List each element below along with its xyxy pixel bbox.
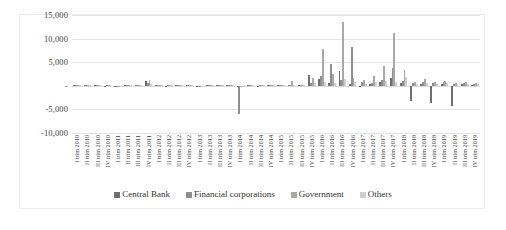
- bar-group: [388, 15, 398, 133]
- bar: [293, 85, 295, 86]
- x-axis-tick: III trim 2019: [460, 134, 470, 192]
- legend-item[interactable]: Others: [360, 190, 392, 199]
- bar-group: [347, 15, 357, 133]
- bar-slot: [467, 15, 469, 133]
- bar-group: [235, 15, 245, 133]
- x-axis-tick: I trim 2012: [154, 134, 164, 192]
- legend-label: Others: [368, 190, 392, 199]
- legend-item[interactable]: Financial corporations: [186, 190, 275, 199]
- bar-group: [276, 15, 286, 133]
- x-axis-tick-label: IV trim 2013: [227, 135, 233, 167]
- bar-group: [245, 15, 255, 133]
- bar-group: [419, 15, 429, 133]
- bar-group: [286, 15, 296, 133]
- x-axis-tick-label: III trim 2019: [462, 135, 468, 167]
- chart-legend: Central BankFinancial corporationsGovern…: [20, 190, 486, 199]
- bar-group: [92, 15, 102, 133]
- x-axis-tick: IV trim 2019: [470, 134, 480, 192]
- bar-slot: [375, 15, 377, 133]
- legend-swatch-financial-corporations: [186, 192, 192, 198]
- bar-group: [174, 15, 184, 133]
- bar: [263, 85, 265, 86]
- x-axis-tick-label: I trim 2018: [400, 135, 406, 163]
- y-axis-tick-label: -10,000: [20, 129, 68, 138]
- bar-slot: [273, 15, 275, 133]
- x-axis-tick: I trim 2015: [276, 134, 286, 192]
- bar-group: [184, 15, 194, 133]
- bar-group: [450, 15, 460, 133]
- x-axis-tick-label: II trim 2015: [288, 135, 294, 165]
- legend-item[interactable]: Central Bank: [114, 190, 170, 199]
- bar-group: [123, 15, 133, 133]
- bar-slot: [457, 15, 459, 133]
- x-axis-tick-label: I trim 2015: [278, 135, 284, 163]
- x-axis-tick-label: IV trim 2017: [390, 135, 396, 167]
- bar-group: [113, 15, 123, 133]
- x-axis-tick-label: I trim 2011: [115, 135, 121, 163]
- bar-group: [164, 15, 174, 133]
- x-axis-tick: II trim 2010: [82, 134, 92, 192]
- bar-slot: [416, 15, 418, 133]
- x-axis-tick: IV trim 2014: [266, 134, 276, 192]
- y-axis: 15,00010,0005,000--5,000-10,000: [20, 15, 72, 133]
- bar-group: [409, 15, 419, 133]
- bar-group: [296, 15, 306, 133]
- bar-group: [337, 15, 347, 133]
- bar-group: [154, 15, 164, 133]
- bar: [140, 85, 142, 86]
- x-axis-tick: IV trim 2016: [347, 134, 357, 192]
- x-axis-tick-label: II trim 2012: [166, 135, 172, 165]
- legend-swatch-government: [291, 192, 297, 198]
- x-axis-tick: II trim 2016: [327, 134, 337, 192]
- x-axis-tick-label: II trim 2011: [125, 135, 131, 165]
- bar: [89, 85, 91, 86]
- bar-group: [133, 15, 143, 133]
- legend-swatch-others: [360, 192, 366, 198]
- bar: [283, 85, 285, 86]
- x-axis-tick-label: I trim 2010: [74, 135, 80, 163]
- x-axis-tick-label: II trim 2014: [247, 135, 253, 165]
- y-axis-tick-label: 10,000: [20, 35, 68, 44]
- x-axis-tick: I trim 2018: [399, 134, 409, 192]
- x-axis-tick-label: IV trim 2016: [349, 135, 355, 167]
- bar: [150, 84, 152, 86]
- chart-container: 15,00010,0005,000--5,000-10,000 I trim 2…: [19, 14, 485, 209]
- x-axis-tick-label: I trim 2019: [441, 135, 447, 163]
- bar-group: [266, 15, 276, 133]
- bar-slot: [242, 15, 244, 133]
- bar: [120, 86, 122, 87]
- x-axis-tick: IV trim 2010: [103, 134, 113, 192]
- x-axis-tick-label: III trim 2016: [339, 135, 345, 167]
- x-axis-tick: III trim 2015: [296, 134, 306, 192]
- bar-slot: [150, 15, 152, 133]
- bar-slot: [303, 15, 305, 133]
- bar-slot: [314, 15, 316, 133]
- x-axis-tick: II trim 2019: [450, 134, 460, 192]
- x-axis-tick-label: I trim 2012: [156, 135, 162, 163]
- bar: [324, 82, 326, 86]
- x-axis-tick-label: III trim 2013: [217, 135, 223, 167]
- bar-slot: [222, 15, 224, 133]
- bar-group: [378, 15, 388, 133]
- bar-group: [82, 15, 92, 133]
- x-axis-tick-label: III trim 2012: [176, 135, 182, 167]
- bar-slot: [365, 15, 367, 133]
- x-axis-tick: III trim 2014: [256, 134, 266, 192]
- bar-slot: [191, 15, 193, 133]
- bar-slot: [395, 15, 397, 133]
- x-axis-tick-label: III trim 2018: [421, 135, 427, 167]
- bar: [201, 86, 203, 87]
- x-axis-tick-label: IV trim 2012: [186, 135, 192, 167]
- bar: [242, 86, 244, 87]
- y-axis-tick-label: -: [20, 82, 68, 91]
- bar-slot: [212, 15, 214, 133]
- bar: [99, 85, 101, 86]
- bar: [457, 84, 459, 85]
- bar: [130, 85, 132, 86]
- legend-item[interactable]: Government: [291, 190, 344, 199]
- legend-swatch-central-bank: [114, 192, 120, 198]
- bar: [354, 82, 356, 85]
- x-axis-tick-label: II trim 2017: [370, 135, 376, 165]
- bar-group: [205, 15, 215, 133]
- bar-slot: [89, 15, 91, 133]
